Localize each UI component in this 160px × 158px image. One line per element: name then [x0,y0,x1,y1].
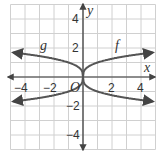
axes [8,4,155,150]
x-tick-2: 2 [108,81,115,95]
x-tick-neg2: −2 [43,81,57,95]
y-tick-neg4: −4 [66,128,80,142]
coordinate-graph: −4 −2 2 4 4 2 −2 −4 O x y g f [0,0,160,158]
y-axis-label: y [85,3,94,18]
x-axis-label: x [143,60,151,75]
y-tick-2: 2 [72,41,79,55]
y-tick-neg2: −2 [66,99,80,113]
curve-label-f: f [115,38,121,53]
curve-label-g: g [40,38,47,53]
x-tick-neg4: −4 [14,81,28,95]
x-tick-4: 4 [137,81,144,95]
curve-branch-0 [83,53,153,78]
curve-branch-1 [13,53,83,78]
y-tick-4: 4 [72,12,79,26]
origin-label: O [70,80,80,95]
